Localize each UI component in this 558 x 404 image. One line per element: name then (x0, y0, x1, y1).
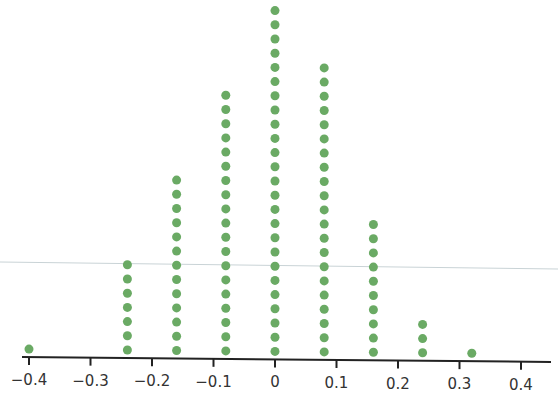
data-dot (418, 334, 427, 343)
data-dot (271, 35, 280, 44)
data-dot (320, 92, 329, 101)
data-dot (172, 318, 181, 327)
data-dot (221, 119, 230, 128)
data-dot (320, 347, 329, 356)
data-dot (221, 162, 230, 171)
data-dot (320, 106, 329, 115)
data-dot (123, 331, 132, 340)
data-dot (418, 348, 427, 357)
data-dot (369, 348, 378, 357)
x-tick-label: 0.1 (325, 374, 349, 392)
data-dot (271, 49, 280, 58)
data-dot (320, 319, 329, 328)
data-dot (320, 262, 329, 271)
data-dot (221, 346, 230, 355)
data-dot (123, 317, 132, 326)
data-dot (271, 219, 280, 228)
x-tick-label: −0.4 (11, 371, 47, 389)
x-tick-label: 0.2 (386, 375, 410, 393)
data-dot (320, 305, 329, 314)
data-dot (271, 6, 280, 15)
data-dot (320, 134, 329, 143)
data-dot (271, 290, 280, 299)
data-dot (123, 260, 132, 269)
x-tick-label: −0.2 (134, 372, 170, 390)
data-dot (320, 149, 329, 158)
data-dot (320, 220, 329, 229)
data-dot (320, 333, 329, 342)
data-dot (369, 277, 378, 286)
data-dot (271, 77, 280, 86)
data-dot (271, 205, 280, 214)
data-dot (369, 291, 378, 300)
dot-plot-chart: −0.4−0.3−0.2−0.100.10.20.30.4 (0, 0, 558, 404)
data-dot (271, 134, 280, 143)
data-dot (271, 319, 280, 328)
data-dot (271, 162, 280, 171)
data-dot (271, 304, 280, 313)
x-axis-ticks: −0.4−0.3−0.2−0.100.10.20.30.4 (11, 357, 533, 394)
data-dot (467, 349, 476, 358)
data-dot (172, 289, 181, 298)
data-dot (123, 289, 132, 298)
data-dot (369, 263, 378, 272)
data-dot (221, 290, 230, 299)
data-dot (271, 276, 280, 285)
data-dot (221, 105, 230, 114)
data-dot (25, 345, 34, 354)
data-dot (369, 334, 378, 343)
data-dot (271, 248, 280, 257)
data-dot (271, 120, 280, 129)
data-dot (418, 320, 427, 329)
x-tick-label: 0 (270, 373, 280, 391)
data-dot (271, 148, 280, 157)
data-dot (221, 332, 230, 341)
data-dot (320, 291, 329, 300)
data-dot (271, 177, 280, 186)
data-dot (271, 333, 280, 342)
data-dot (369, 319, 378, 328)
data-dot (320, 177, 329, 186)
data-dot (221, 261, 230, 270)
data-dot (271, 191, 280, 200)
data-dot (320, 234, 329, 243)
data-dot (172, 218, 181, 227)
data-dot (369, 220, 378, 229)
data-dot (172, 346, 181, 355)
data-dot (221, 304, 230, 313)
data-dot (221, 247, 230, 256)
data-dot (271, 91, 280, 100)
data-dot (172, 247, 181, 256)
dot-columns (25, 6, 477, 358)
data-dot (320, 163, 329, 172)
data-dot (271, 233, 280, 242)
data-dot (369, 234, 378, 243)
data-dot (320, 120, 329, 129)
data-dot (221, 190, 230, 199)
data-dot (271, 63, 280, 72)
x-tick-label: 0.3 (448, 375, 472, 393)
data-dot (123, 346, 132, 355)
data-dot (221, 133, 230, 142)
data-dot (271, 20, 280, 29)
data-dot (320, 248, 329, 257)
data-dot (221, 275, 230, 284)
data-dot (172, 176, 181, 185)
data-dot (172, 190, 181, 199)
x-tick-label: 0.4 (509, 376, 533, 394)
data-dot (271, 262, 280, 271)
data-dot (172, 303, 181, 312)
x-tick-label: −0.3 (72, 372, 108, 390)
data-dot (221, 318, 230, 327)
data-dot (221, 91, 230, 100)
x-tick-label: −0.1 (195, 373, 231, 391)
data-dot (320, 276, 329, 285)
data-dot (172, 275, 181, 284)
data-dot (221, 148, 230, 157)
data-dot (320, 191, 329, 200)
data-dot (172, 261, 181, 270)
data-dot (320, 205, 329, 214)
data-dot (221, 204, 230, 213)
data-dot (271, 106, 280, 115)
data-dot (369, 305, 378, 314)
